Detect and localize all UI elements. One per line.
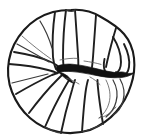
figure-root: Line drawing of a discoidal multi-chambe…: [0, 0, 142, 140]
specimen-line-drawing: Line drawing of a discoidal multi-chambe…: [0, 0, 142, 140]
